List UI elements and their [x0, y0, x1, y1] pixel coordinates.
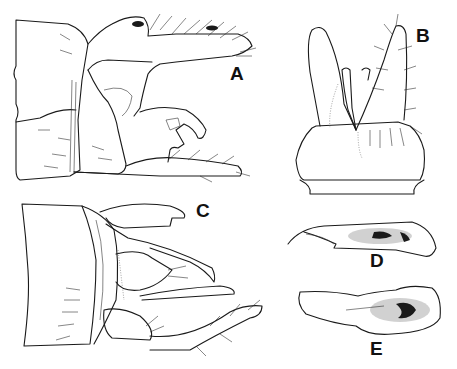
- panel-b-drawing: [296, 14, 425, 194]
- panel-a-drawing: [14, 14, 256, 182]
- panel-c-drawing: [22, 204, 262, 356]
- panel-label-c: C: [196, 200, 210, 222]
- drawings-canvas: [0, 0, 457, 369]
- panel-label-d: D: [370, 250, 384, 272]
- panel-label-e: E: [370, 338, 383, 360]
- panel-label-b: B: [416, 25, 430, 47]
- panel-label-a: A: [230, 63, 244, 85]
- panel-e-drawing: [299, 286, 440, 334]
- figure-plate: A B C D E: [0, 0, 457, 369]
- panel-d-drawing: [288, 222, 436, 256]
